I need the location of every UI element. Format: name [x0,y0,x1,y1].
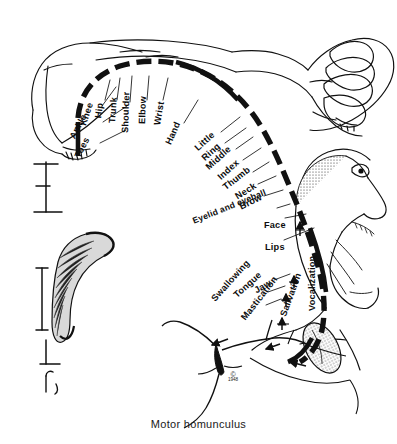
label-vocalization: Vocalization [307,256,317,311]
lower-left-glyph [46,371,57,394]
copyright-mark: © 1948 [222,371,244,383]
label-lips: Lips [265,242,285,252]
figure-caption: Motor homunculus [0,418,397,430]
scale-bar-upper [34,162,62,212]
clenched-fist-figure [308,38,394,136]
label-hip: Hip [93,102,105,119]
label-face: Face [264,220,286,230]
label-leader-lines [100,76,314,305]
gyrus-cross-section [52,233,114,342]
label-trunk: Trunk [107,97,119,124]
label-elbow: Elbow [137,96,148,124]
motor-homunculus-figure: Toes Ankle Knee Hip Trunk Shoulder Elbow… [0,0,397,444]
label-shoulder: Shoulder [120,91,131,133]
copyright-year: 1948 [222,378,244,383]
